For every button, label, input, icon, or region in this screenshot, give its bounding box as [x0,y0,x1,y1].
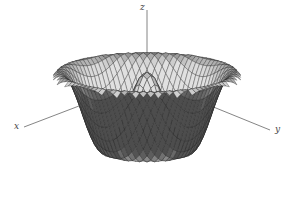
surface-plot: z x y [0,0,294,215]
x-axis-label: x [14,121,19,131]
y-axis-label: y [275,124,280,134]
z-axis-label: z [140,2,145,12]
surface-canvas [0,0,294,215]
